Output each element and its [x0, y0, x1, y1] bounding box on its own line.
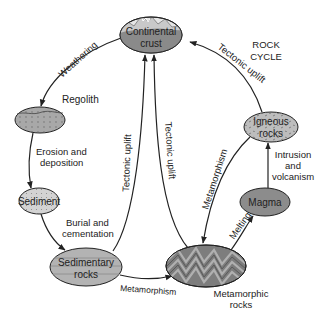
- label-tectonic-uplift-sedimentary: Tectonic uplift: [120, 134, 133, 192]
- label-intrusion-2: and: [285, 160, 301, 171]
- label-burial-2: cementation: [62, 228, 114, 239]
- node-regolith: Regolith: [15, 94, 99, 133]
- arrow-erosion: [29, 133, 33, 188]
- node-sedimentary-rocks: Sedimentary rocks: [50, 248, 122, 286]
- label-weathering: Weathering: [56, 39, 99, 80]
- title-line-2: CYCLE: [250, 51, 282, 62]
- label-burial-1: Burial and: [66, 217, 109, 228]
- label-magma: Magma: [248, 197, 282, 208]
- arrow-metamorphism-bottom: [120, 275, 172, 279]
- label-metamorphism-bottom: Metamorphism: [120, 283, 177, 297]
- label-continental-crust-2: crust: [140, 38, 162, 49]
- title-line-1: ROCK: [252, 39, 280, 50]
- label-sediment: Sediment: [18, 196, 60, 207]
- label-metamorphic-rocks-2: rocks: [230, 299, 253, 310]
- label-continental-crust-1: Continental: [126, 26, 177, 37]
- label-erosion-1: Erosion and: [36, 146, 87, 157]
- label-erosion-2: deposition: [40, 157, 83, 168]
- node-igneous-rocks: Igneous rocks: [244, 112, 298, 142]
- node-magma: Magma: [240, 188, 290, 216]
- label-metamorphism-igneous: Metamorphism: [199, 147, 229, 210]
- label-metamorphic-rocks-1: Metamorphic: [214, 288, 269, 299]
- label-sedimentary-rocks-1: Sedimentary: [58, 257, 114, 268]
- label-sedimentary-rocks-2: rocks: [74, 269, 98, 280]
- node-continental-crust: Continental crust: [118, 15, 184, 60]
- node-sediment: Sediment: [18, 188, 60, 214]
- node-metamorphic-rocks: Metamorphic rocks: [166, 245, 269, 310]
- label-regolith: Regolith: [62, 94, 99, 105]
- label-igneous-rocks-2: rocks: [259, 128, 283, 139]
- label-intrusion-3: volcanism: [272, 171, 314, 182]
- label-intrusion-1: Intrusion: [275, 149, 311, 160]
- rock-cycle-diagram: Continental crust Regolith Sediment Sedi…: [0, 0, 327, 312]
- label-igneous-rocks-1: Igneous: [253, 116, 289, 127]
- label-tectonic-uplift-metamorphic: Tectonic uplift: [163, 121, 178, 180]
